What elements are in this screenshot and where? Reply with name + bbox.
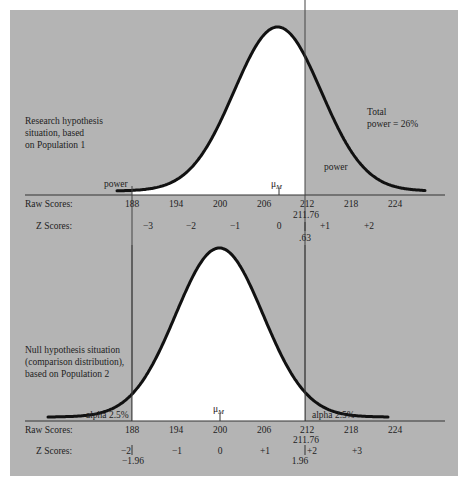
svg-text:+3: +3 <box>352 446 362 456</box>
svg-text:194: 194 <box>169 425 184 435</box>
bottom-z-label: Z Scores: <box>36 446 72 456</box>
svg-text:224: 224 <box>388 199 403 209</box>
top-cutoff-z: .63 <box>299 233 311 243</box>
bottom-raw-label: Raw Scores: <box>25 425 73 435</box>
bottom-alpha-right: alpha 2.5% <box>312 410 355 420</box>
svg-text:−2: −2 <box>186 221 196 231</box>
svg-text:206: 206 <box>257 199 272 209</box>
svg-text:194: 194 <box>169 199 184 209</box>
svg-text:212: 212 <box>300 199 315 209</box>
svg-text:+2: +2 <box>364 221 374 231</box>
svg-text:−2: −2 <box>121 446 131 456</box>
svg-text:212: 212 <box>300 425 315 435</box>
bottom-cutoff-high-z: 1.96 <box>292 456 309 466</box>
top-power-right: power <box>324 162 349 172</box>
svg-text:200: 200 <box>213 425 228 435</box>
bottom-cutoff-low-z: −1.96 <box>122 456 144 466</box>
svg-text:206: 206 <box>257 425 272 435</box>
svg-text:188: 188 <box>125 199 140 209</box>
top-raw-label: Raw Scores: <box>25 199 73 209</box>
svg-text:−1: −1 <box>172 446 182 456</box>
bottom-caption-line1: Null hypothesis situation <box>25 345 120 355</box>
bottom-alpha-left: alpha 2.5% <box>86 410 129 420</box>
top-power-left: power <box>104 179 129 189</box>
svg-text:218: 218 <box>344 199 359 209</box>
bottom-white-region <box>132 248 305 421</box>
svg-text:0: 0 <box>277 221 282 231</box>
power-diagram: Research hypothesis situation, based on … <box>0 0 468 486</box>
svg-text:+1: +1 <box>320 221 330 231</box>
top-white-region <box>132 27 305 195</box>
bottom-cutoff-raw: 211.76 <box>293 435 319 445</box>
svg-text:188: 188 <box>125 425 140 435</box>
svg-text:−1: −1 <box>230 221 240 231</box>
top-total-line2: power = 26% <box>367 119 418 129</box>
top-raw-ticks: 188 194 200 206 212 218 224 <box>125 199 403 209</box>
top-caption-line2: situation, based <box>25 128 84 138</box>
svg-text:−3: −3 <box>143 221 153 231</box>
top-cutoff-raw: 211.76 <box>293 210 319 220</box>
bottom-caption-line2: (comparison distribution), <box>25 357 124 368</box>
svg-text:0: 0 <box>218 446 223 456</box>
svg-text:224: 224 <box>388 425 403 435</box>
bottom-z-ticks: −2 −1 0 +1 +2 +3 <box>121 446 362 456</box>
svg-text:+2: +2 <box>307 446 317 456</box>
bottom-raw-ticks: 188 194 200 206 212 218 224 <box>125 425 403 435</box>
bottom-caption-line3: based on Population 2 <box>25 369 109 379</box>
top-caption-line3: on Population 1 <box>25 140 85 150</box>
top-total-line1: Total <box>367 107 387 117</box>
svg-text:218: 218 <box>344 425 359 435</box>
top-z-ticks: −3 −2 −1 0 +1 +2 <box>143 221 374 231</box>
top-z-label: Z Scores: <box>36 221 72 231</box>
svg-text:+1: +1 <box>260 446 270 456</box>
svg-text:200: 200 <box>213 199 228 209</box>
top-caption-line1: Research hypothesis <box>25 116 103 126</box>
